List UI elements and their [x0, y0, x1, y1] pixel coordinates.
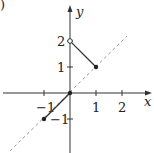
- filled-point: [42, 117, 46, 121]
- x-tick-label: 1: [92, 100, 100, 115]
- open-point: [68, 39, 73, 44]
- y-tick-label: 2: [57, 34, 65, 49]
- corner-mark: ): [0, 0, 5, 12]
- x-tick-label: 2: [118, 100, 126, 115]
- y-tick-label: 1: [57, 60, 65, 75]
- segment-piece-2: [72, 43, 96, 67]
- y-axis-label: y: [75, 4, 84, 19]
- y-axis-arrow-icon: [68, 5, 73, 12]
- filled-point: [94, 65, 98, 69]
- function-graph: ) −1 1 2 1 2 −1 x y: [0, 0, 154, 153]
- filled-point: [68, 91, 72, 95]
- x-axis-label: x: [144, 94, 152, 109]
- y-tick-label: −1: [50, 112, 69, 127]
